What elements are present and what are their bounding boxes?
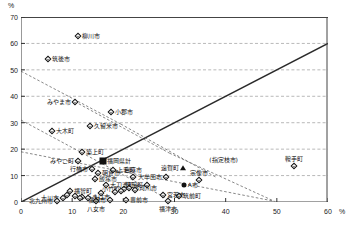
plot-canvas bbox=[21, 17, 328, 202]
y-tick-label: 40 bbox=[0, 93, 18, 100]
data-point-label: みやま市 bbox=[47, 99, 71, 105]
data-point-label: 築上町 bbox=[86, 149, 104, 155]
x-tick-label: 10 bbox=[62, 208, 82, 215]
y-tick-label: 10 bbox=[0, 172, 18, 179]
gridlines bbox=[21, 17, 328, 176]
data-point-label: A市 bbox=[188, 182, 198, 188]
data-point-label: 遠賀町 bbox=[161, 165, 179, 171]
data-point-label: 行橋市 bbox=[70, 166, 88, 172]
y-tick-label: 70 bbox=[0, 14, 18, 21]
data-point-label: 北九州市 bbox=[29, 198, 53, 204]
y-axis-unit-label: % bbox=[8, 2, 14, 9]
data-point-marker[interactable] bbox=[180, 165, 186, 170]
y-tick-label: 60 bbox=[0, 40, 18, 47]
x-tick-label: 30 bbox=[165, 208, 185, 215]
x-axis-unit-label: % bbox=[339, 208, 345, 215]
data-point-label: 鞍手町 bbox=[285, 156, 303, 162]
data-point-label: 小郡市 bbox=[115, 109, 133, 115]
data-point-label: みやこ町 bbox=[50, 158, 74, 164]
data-point-label: (指定枝市) bbox=[209, 157, 238, 163]
x-tick-label: 60 bbox=[318, 208, 338, 215]
data-point-label: 福岡県計 bbox=[107, 158, 131, 164]
data-point-label: 豊前市 bbox=[130, 197, 148, 203]
data-point-label: 筑前町 bbox=[183, 193, 201, 199]
x-tick-label: 20 bbox=[113, 208, 133, 215]
scatter-chart: % 柳川市筑後市みやま市小郡市久留米市大木町築上町みやこ町福岡県計鞍手町遠賀町上… bbox=[0, 0, 350, 227]
data-point-marker[interactable] bbox=[181, 183, 186, 188]
plot-area: 柳川市筑後市みやま市小郡市久留米市大木町築上町みやこ町福岡県計鞍手町遠賀町上毛町… bbox=[21, 17, 328, 202]
data-point-label: 久留米市 bbox=[94, 123, 118, 129]
data-point-label: 柳川市 bbox=[82, 33, 100, 39]
data-point-label: 筑後市 bbox=[52, 56, 70, 62]
x-tick-label: 0 bbox=[11, 208, 31, 215]
y-tick-marks bbox=[21, 17, 25, 202]
x-tick-label: 50 bbox=[267, 208, 287, 215]
data-point-label: 宗像市 bbox=[190, 170, 208, 176]
x-tick-label: 40 bbox=[216, 208, 236, 215]
data-point-marker[interactable] bbox=[99, 158, 106, 165]
x-tick-marks bbox=[21, 198, 328, 202]
data-point-label: 大木町 bbox=[56, 128, 74, 134]
data-point-label: 大牟田市 bbox=[138, 174, 162, 180]
data-point-label: 宮若市 bbox=[167, 192, 185, 198]
y-tick-label: 0 bbox=[0, 199, 18, 206]
y-tick-label: 20 bbox=[0, 146, 18, 153]
y-tick-label: 50 bbox=[0, 66, 18, 73]
data-point-label: 大刀洗町 bbox=[110, 182, 134, 188]
y-tick-label: 30 bbox=[0, 119, 18, 126]
data-point-label: 八女市 bbox=[87, 206, 105, 212]
